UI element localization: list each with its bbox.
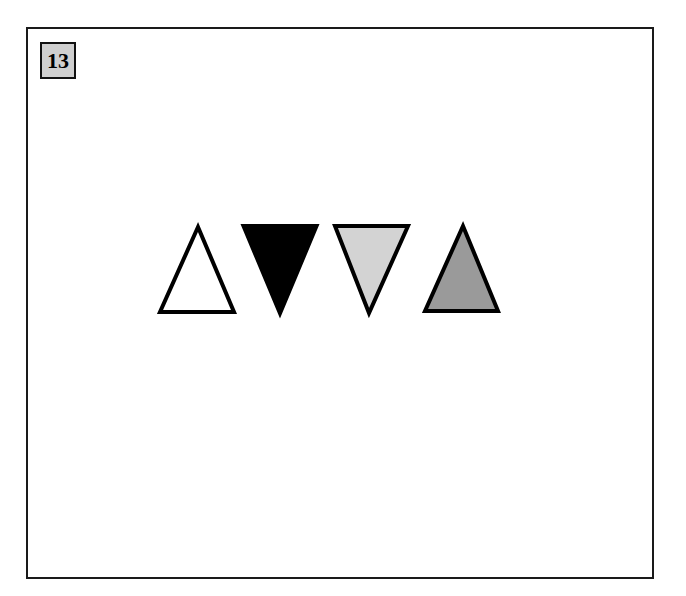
triangle-down-lightgray [335,226,408,313]
shape-sequence [0,0,686,596]
triangle-up-white [160,227,234,312]
triangle-down-black [242,225,318,316]
triangle-up-gray [425,226,498,311]
